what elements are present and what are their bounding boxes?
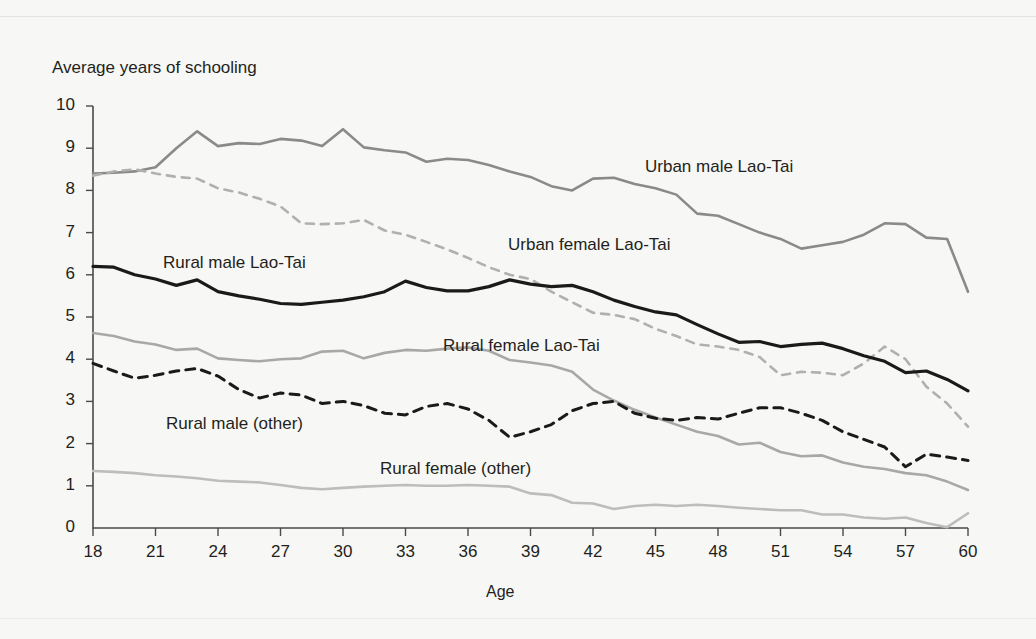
- x-tick-label: 24: [198, 542, 238, 562]
- x-tick-label: 45: [636, 542, 676, 562]
- x-tick-label: 30: [323, 542, 363, 562]
- y-tick-label: 7: [45, 222, 75, 242]
- series-label-rural-male-other: Rural male (other): [166, 414, 303, 434]
- series-label-rural-female-other: Rural female (other): [380, 459, 531, 479]
- x-tick-label: 60: [948, 542, 988, 562]
- x-tick-label: 57: [886, 542, 926, 562]
- series-label-urban-female-lao-tai: Urban female Lao-Tai: [508, 235, 671, 255]
- x-tick-label: 48: [698, 542, 738, 562]
- x-tick-label: 36: [448, 542, 488, 562]
- series-line-rural-male-lao-tai: [93, 266, 968, 390]
- y-tick-label: 8: [45, 179, 75, 199]
- y-tick-label: 10: [45, 95, 75, 115]
- x-tick-label: 33: [386, 542, 426, 562]
- x-tick-label: 42: [573, 542, 613, 562]
- series-line-rural-female-other: [93, 471, 968, 527]
- y-tick-label: 1: [45, 475, 75, 495]
- series-line-urban-female-lao-tai: [93, 169, 968, 426]
- series-label-urban-male-lao-tai: Urban male Lao-Tai: [645, 157, 793, 177]
- x-tick-label: 39: [511, 542, 551, 562]
- x-tick-label: 54: [823, 542, 863, 562]
- x-tick-label: 21: [136, 542, 176, 562]
- x-tick-label: 51: [761, 542, 801, 562]
- y-tick-label: 0: [45, 517, 75, 537]
- series-label-rural-female-lao-tai: Rural female Lao-Tai: [443, 336, 600, 356]
- series-label-rural-male-lao-tai: Rural male Lao-Tai: [163, 253, 306, 273]
- y-tick-label: 4: [45, 348, 75, 368]
- x-tick-label: 18: [73, 542, 113, 562]
- y-tick-label: 2: [45, 433, 75, 453]
- y-tick-label: 3: [45, 390, 75, 410]
- y-tick-label: 9: [45, 137, 75, 157]
- figure-page: Average years of schooling Age Urban mal…: [0, 0, 1036, 639]
- y-tick-label: 6: [45, 264, 75, 284]
- y-tick-label: 5: [45, 306, 75, 326]
- x-tick-label: 27: [261, 542, 301, 562]
